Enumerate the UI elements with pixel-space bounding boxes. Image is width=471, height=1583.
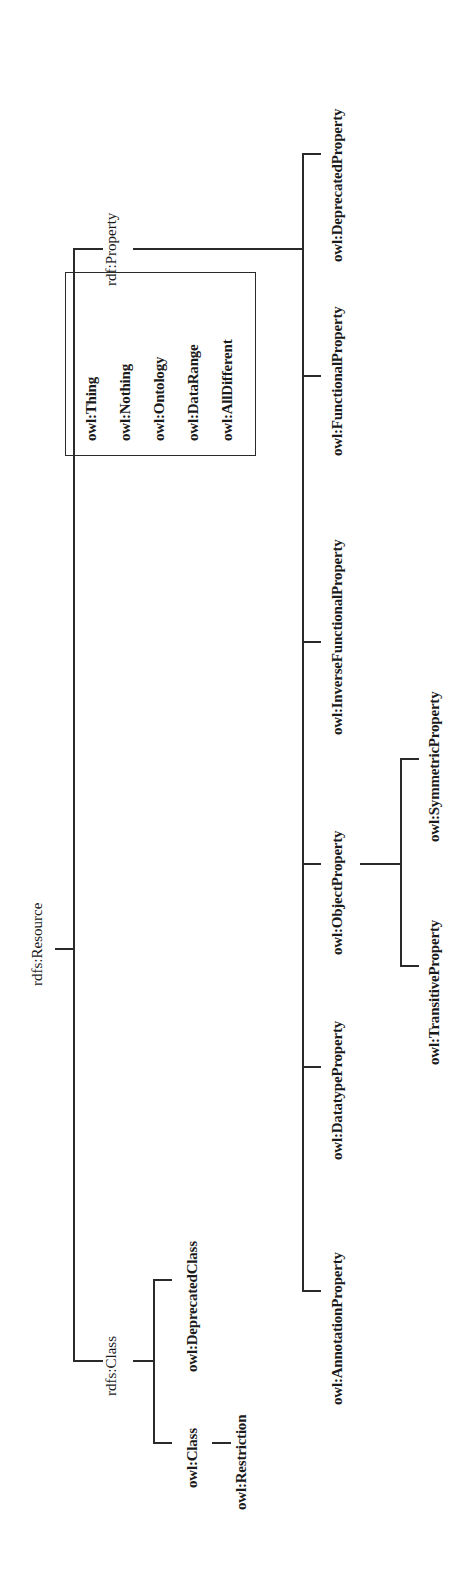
edge-to-datatype-property [302, 1066, 321, 1068]
edge-to-annotation-property [302, 1290, 321, 1292]
edge-object-children-trunk [400, 758, 402, 965]
edge-to-owl-class [153, 1442, 172, 1444]
edge-to-inverse-functional-property [302, 641, 321, 643]
edge-class-to-children [133, 1360, 154, 1362]
edge-to-transitive-property [400, 965, 419, 967]
node-owl-annotation-property: owl:AnnotationProperty [330, 1252, 345, 1405]
node-owl-functional-property: owl:FunctionalProperty [330, 307, 345, 456]
edge-property-trunk [302, 153, 304, 1291]
edge-class-children-trunk [153, 1279, 155, 1443]
edge-to-object-property [302, 863, 321, 865]
node-owl-deprecated-property: owl:DeprecatedProperty [330, 109, 345, 262]
node-owl-deprecated-class: owl:DeprecatedClass [185, 1241, 200, 1372]
edge-property-to-children [133, 248, 303, 250]
edge-to-symmetric-property [400, 758, 419, 760]
box-item-owl-nothing: owl:Nothing [118, 364, 133, 441]
box-item-owl-thing: owl:Thing [84, 377, 99, 441]
node-owl-transitive-property: owl:TransitiveProperty [427, 920, 442, 1065]
node-owl-class: owl:Class [185, 1428, 200, 1488]
edge-to-functional-property [302, 375, 321, 377]
node-owl-restriction: owl:Restriction [234, 1415, 249, 1510]
edge-trunk-to-class [73, 1360, 103, 1362]
node-owl-datatype-property: owl:DatatypeProperty [330, 1021, 345, 1160]
node-owl-symmetric-property: owl:SymmetricProperty [427, 692, 442, 842]
edge-owl-class-to-restriction [212, 1442, 231, 1444]
edge-trunk-to-property [73, 248, 103, 250]
box-item-owl-alldifferent: owl:AllDifferent [220, 340, 235, 442]
node-rdfs-class: rdfs:Class [104, 1336, 119, 1396]
box-item-owl-ontology: owl:Ontology [152, 357, 167, 441]
node-owl-inverse-functional-property: owl:InverseFunctionalProperty [330, 539, 345, 735]
edge-to-deprecated-property [302, 153, 321, 155]
edge-object-to-children [360, 863, 401, 865]
edge-to-deprecated-class [153, 1279, 172, 1281]
owl-hierarchy-diagram: rdfs:Resource rdf:Property owl:Deprecate… [0, 0, 471, 1583]
node-rdfs-resource: rdfs:Resource [30, 903, 45, 986]
node-owl-object-property: owl:ObjectProperty [330, 831, 345, 955]
box-item-owl-datarange: owl:DataRange [186, 344, 201, 441]
edge-root-tick [55, 948, 74, 950]
